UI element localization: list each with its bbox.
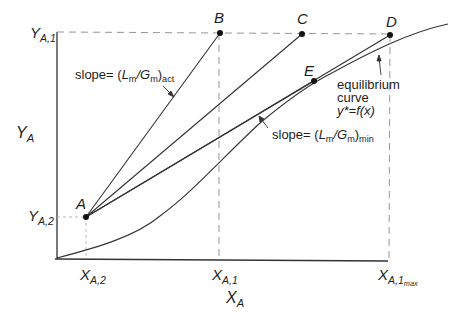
x-a1max-guide xyxy=(389,35,390,261)
operating-lines xyxy=(86,33,390,217)
y-a1-guide xyxy=(57,32,390,34)
line-ae xyxy=(86,81,314,217)
line-ab xyxy=(86,33,220,217)
point-a-guides xyxy=(57,217,86,259)
point-a-marker xyxy=(83,214,89,220)
line-ac xyxy=(86,34,302,217)
equilibrium-arrowhead xyxy=(377,55,381,61)
point-c-marker xyxy=(299,31,305,37)
x-tick-xa1max: XA,1max xyxy=(378,267,418,287)
point-b-marker xyxy=(217,30,223,36)
slope-min-arrowhead xyxy=(259,116,264,122)
x-axis-label: XA xyxy=(226,290,244,309)
slope-min-label: slope= (Lm/Gm)min xyxy=(272,128,374,144)
point-d-label: D xyxy=(386,14,397,29)
point-b-label: B xyxy=(214,10,224,25)
equilibrium-label-line3: y*=f(x) xyxy=(337,104,375,117)
equilibrium-curve xyxy=(57,24,448,258)
point-e-label: E xyxy=(304,63,314,78)
y-axis-label: YA xyxy=(16,125,34,144)
x-tick-xa1: XA,1 xyxy=(212,267,238,285)
point-d-marker xyxy=(387,32,393,38)
x-tick-xa2: XA,2 xyxy=(80,267,106,285)
y-tick-ya1: YA,1 xyxy=(30,25,56,43)
point-a-label: A xyxy=(76,196,86,211)
y-tick-ya2: YA,2 xyxy=(28,208,54,226)
point-c-label: C xyxy=(297,11,308,26)
x-axis xyxy=(55,259,388,261)
slope-act-label: slope= (Lm/Gm)act xyxy=(75,68,174,84)
